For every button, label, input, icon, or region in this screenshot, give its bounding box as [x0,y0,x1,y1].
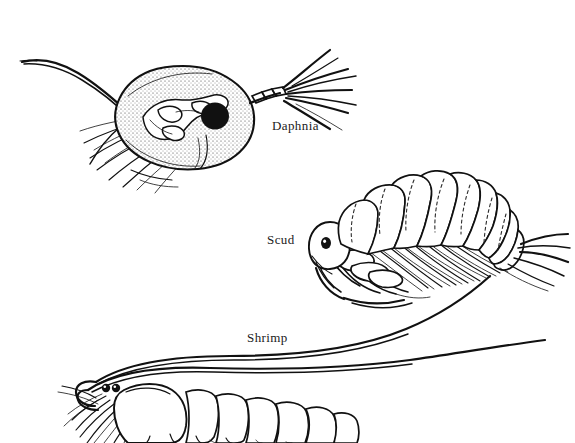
scud-figure [309,171,570,308]
figure-label-shrimp: Shrimp [247,330,288,346]
plate-artwork [0,0,575,443]
shrimp-segments [186,390,359,443]
shrimp-carapace [114,384,186,443]
figure-label-scud: Scud [267,232,295,248]
shrimp-eye-left [102,384,110,392]
figure-label-daphnia: Daphnia [272,118,319,134]
illustration-plate: Daphnia Scud Shrimp [0,0,575,443]
daphnia-eye [201,103,229,130]
shrimp-figure [58,276,545,443]
shrimp-eye-right [112,384,120,392]
scud-eye [321,237,331,249]
